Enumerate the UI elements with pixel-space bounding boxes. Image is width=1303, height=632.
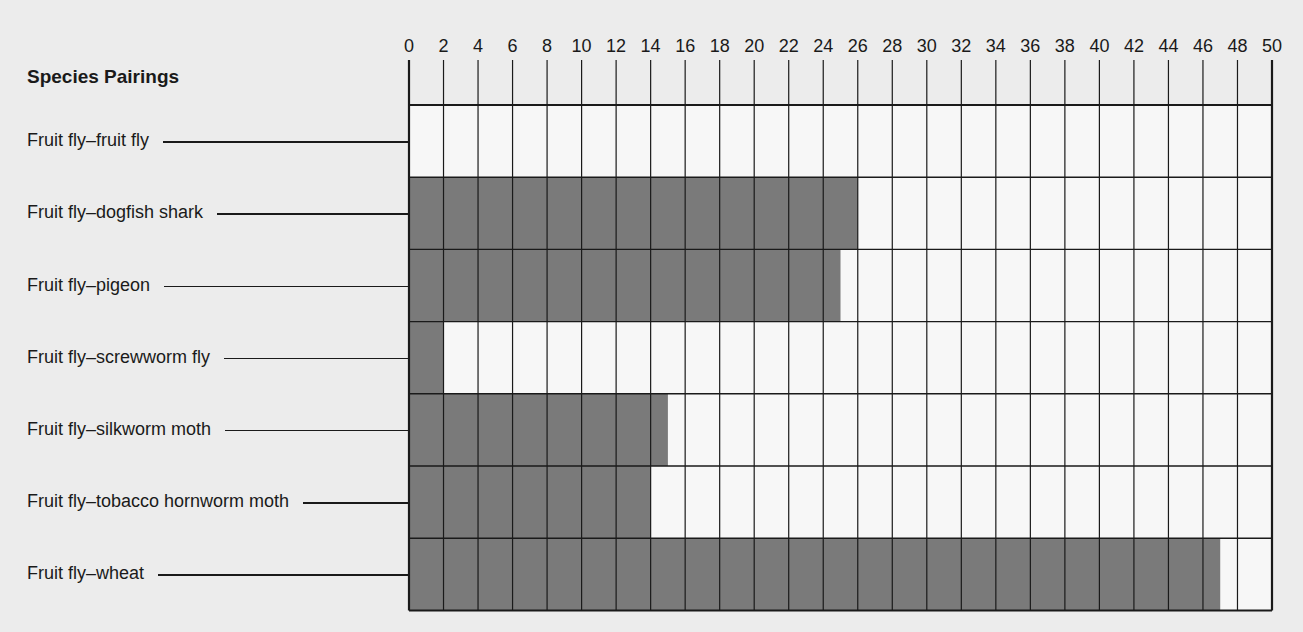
- bar: [409, 249, 841, 321]
- bar: [409, 322, 444, 394]
- bar: [409, 394, 668, 466]
- bar: [409, 466, 651, 538]
- bar: [409, 538, 1220, 610]
- bar: [409, 177, 858, 249]
- bar-chart-grid: [0, 0, 1303, 632]
